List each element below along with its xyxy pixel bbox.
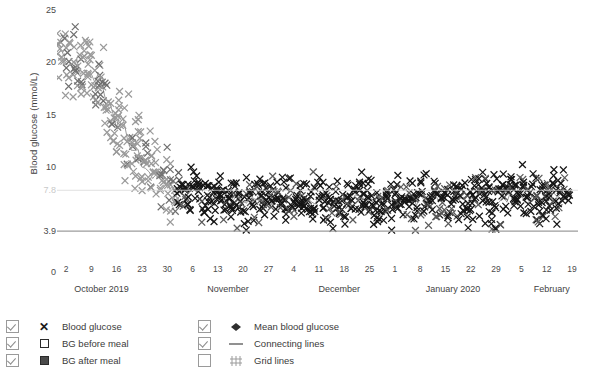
data-point-marker xyxy=(110,138,117,145)
legend-item[interactable]: ✕Blood glucose xyxy=(6,318,129,335)
legend-checkbox[interactable] xyxy=(6,337,19,350)
data-point-marker xyxy=(491,171,498,178)
x-tick-label: 18 xyxy=(340,264,349,274)
legend-item-label: BG before meal xyxy=(62,338,129,349)
y-axis-ticks: 252015107.83.90 xyxy=(18,0,56,290)
legend-item[interactable]: Connecting lines xyxy=(198,335,339,352)
legend-item[interactable]: BG before meal xyxy=(6,335,129,352)
data-point-marker xyxy=(412,227,419,234)
legend-item-label: BG after meal xyxy=(62,355,121,366)
data-point-marker xyxy=(113,149,120,156)
data-point-marker xyxy=(142,140,149,147)
data-point-marker xyxy=(332,188,339,195)
data-point-marker xyxy=(394,172,401,179)
data-point-marker xyxy=(517,174,524,181)
x-tick-label: 9 xyxy=(89,264,94,274)
y-tick-label: 25 xyxy=(26,5,56,15)
data-point-marker xyxy=(234,225,241,232)
data-point-marker xyxy=(164,190,171,197)
x-tick-label: 22 xyxy=(466,264,475,274)
chart-legend: ✕Blood glucoseBG before mealBG after mea… xyxy=(0,318,601,372)
grid-icon xyxy=(227,354,245,367)
legend-checkbox[interactable] xyxy=(198,320,211,333)
data-point-marker xyxy=(152,138,159,145)
diamond-marker-icon xyxy=(227,320,245,333)
legend-checkbox[interactable] xyxy=(198,354,211,367)
data-point-marker xyxy=(476,213,483,220)
data-point-marker xyxy=(358,169,365,176)
data-point-marker xyxy=(211,218,218,225)
data-point-marker xyxy=(198,219,205,226)
data-point-marker xyxy=(504,210,511,217)
data-point-marker xyxy=(63,65,70,72)
data-point-marker xyxy=(261,211,268,218)
data-point-marker xyxy=(365,176,372,183)
data-point-marker xyxy=(167,166,174,173)
x-group-label: December xyxy=(318,284,360,294)
x-tick-label: 8 xyxy=(418,264,423,274)
data-point-marker xyxy=(282,217,289,224)
legend-item[interactable]: Mean blood glucose xyxy=(198,318,339,335)
legend-column-right: Mean blood glucoseConnecting linesGrid l… xyxy=(198,318,339,369)
scatter-svg xyxy=(57,4,596,274)
legend-checkbox[interactable] xyxy=(198,337,211,350)
data-point-marker xyxy=(342,221,349,228)
legend-item[interactable]: BG after meal xyxy=(6,352,129,369)
data-point-marker xyxy=(326,184,333,191)
data-point-marker xyxy=(220,216,227,223)
x-group-label: November xyxy=(207,284,249,294)
data-point-marker xyxy=(70,93,77,100)
x-tick-label: 1 xyxy=(393,264,398,274)
data-point-marker xyxy=(148,153,155,160)
data-point-marker xyxy=(388,215,395,222)
x-tick-label: 27 xyxy=(264,264,273,274)
data-point-marker xyxy=(175,169,182,176)
legend-checkbox[interactable] xyxy=(6,320,19,333)
data-point-marker xyxy=(327,219,334,226)
data-point-marker xyxy=(132,185,139,192)
data-point-marker xyxy=(202,180,209,187)
x-group-label: January 2020 xyxy=(426,284,481,294)
data-point-marker xyxy=(519,161,526,168)
x-tick-label: 4 xyxy=(291,264,296,274)
x-tick-label: 11 xyxy=(315,264,324,274)
y-tick-label: 7.8 xyxy=(26,185,56,195)
data-point-marker xyxy=(482,220,489,227)
data-point-marker xyxy=(212,207,219,214)
x-tick-label: 12 xyxy=(542,264,551,274)
x-axis-ticks: 29162330613202741118251815222951219 xyxy=(57,264,596,280)
data-point-marker xyxy=(228,213,235,220)
data-point-marker xyxy=(97,91,104,98)
x-tick-label: 20 xyxy=(238,264,247,274)
data-point-marker xyxy=(552,213,559,220)
x-tick-label: 30 xyxy=(162,264,171,274)
data-point-marker xyxy=(142,143,149,150)
legend-item-label: Mean blood glucose xyxy=(254,321,339,332)
data-point-marker xyxy=(116,142,123,149)
legend-item[interactable]: Grid lines xyxy=(198,352,339,369)
y-tick-label: 3.9 xyxy=(26,226,56,236)
data-point-marker xyxy=(116,88,123,95)
x-tick-label: 15 xyxy=(441,264,450,274)
data-point-marker xyxy=(561,174,568,181)
data-point-marker xyxy=(62,92,69,99)
data-point-marker xyxy=(164,144,171,151)
data-point-marker xyxy=(462,179,469,186)
x-tick-label: 5 xyxy=(519,264,524,274)
data-point-marker xyxy=(553,221,560,228)
legend-checkbox[interactable] xyxy=(6,354,19,367)
data-point-marker xyxy=(500,171,507,178)
data-point-marker xyxy=(64,49,71,56)
data-point-marker xyxy=(465,224,472,231)
x-marker-icon: ✕ xyxy=(35,320,53,333)
plot-area xyxy=(57,4,596,274)
data-point-marker xyxy=(543,215,550,222)
legend-item-label: Blood glucose xyxy=(62,321,122,332)
data-point-marker xyxy=(57,74,62,81)
filled-square-icon xyxy=(35,354,53,367)
y-tick-label: 0 xyxy=(26,267,56,277)
data-point-marker xyxy=(167,219,174,226)
data-point-marker xyxy=(100,44,107,51)
y-tick-label: 15 xyxy=(26,110,56,120)
x-tick-label: 29 xyxy=(491,264,500,274)
